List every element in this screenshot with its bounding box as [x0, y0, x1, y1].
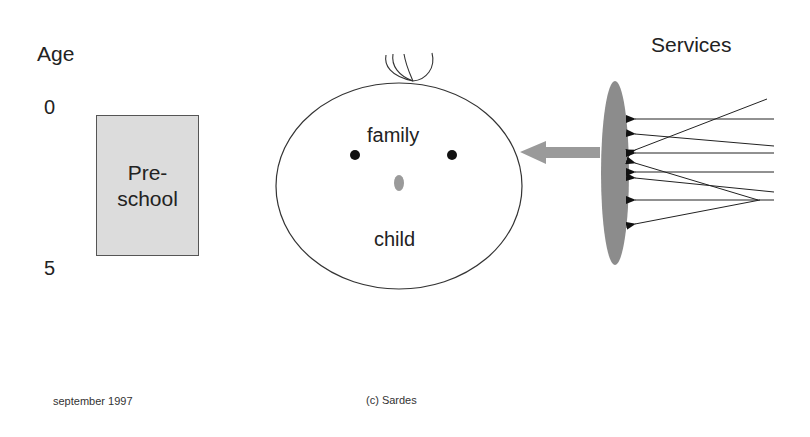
- right-eye-icon: [447, 150, 457, 160]
- family-label: family: [367, 124, 419, 147]
- left-eye-icon: [350, 150, 360, 160]
- services-title: Services: [651, 33, 732, 57]
- services-lens-icon: [601, 81, 629, 265]
- hair-icon: [386, 53, 433, 81]
- footer-date: september 1997: [53, 395, 133, 407]
- diagram-graphics: [0, 0, 810, 437]
- nose-icon: [394, 175, 404, 191]
- services-to-family-arrow-icon: [520, 141, 600, 164]
- service-arrows-icon: [635, 99, 774, 224]
- child-label: child: [374, 228, 415, 251]
- footer-copyright: (c) Sardes: [366, 394, 417, 406]
